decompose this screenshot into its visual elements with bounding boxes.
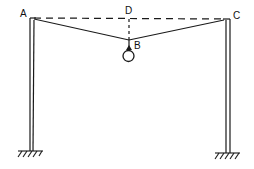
label-D: D bbox=[125, 5, 132, 16]
left-ground-support bbox=[18, 151, 43, 157]
load-ring bbox=[123, 40, 134, 62]
frame-diagram: A D B C bbox=[0, 0, 254, 169]
label-C: C bbox=[233, 10, 240, 21]
left-post bbox=[30, 18, 36, 151]
label-B: B bbox=[134, 40, 141, 51]
reference-line-AC bbox=[34, 18, 226, 19]
right-ground-support bbox=[215, 153, 240, 159]
label-A: A bbox=[20, 8, 27, 19]
cable-AB bbox=[34, 19, 129, 40]
cable-BC bbox=[129, 20, 224, 40]
right-post bbox=[223, 19, 230, 153]
